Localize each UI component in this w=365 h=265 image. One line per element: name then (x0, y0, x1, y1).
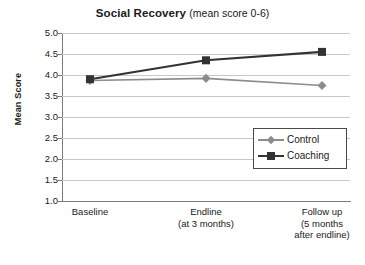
legend-swatch-control (258, 134, 284, 146)
legend-swatch-coaching (258, 150, 284, 162)
data-point-marker[interactable] (202, 56, 210, 64)
legend-label-control: Control (287, 134, 319, 146)
legend-item-control[interactable]: Control (254, 132, 346, 148)
data-point-marker[interactable] (317, 81, 326, 90)
social-recovery-line-chart: Social Recovery (mean score 0-6) Mean Sc… (0, 0, 365, 265)
legend-item-coaching[interactable]: Coaching (254, 148, 346, 164)
data-point-marker[interactable] (318, 48, 326, 56)
legend-label-coaching: Coaching (287, 150, 329, 162)
data-point-marker[interactable] (201, 74, 210, 83)
chart-legend: Control Coaching (253, 128, 347, 169)
data-point-marker[interactable] (86, 75, 94, 83)
